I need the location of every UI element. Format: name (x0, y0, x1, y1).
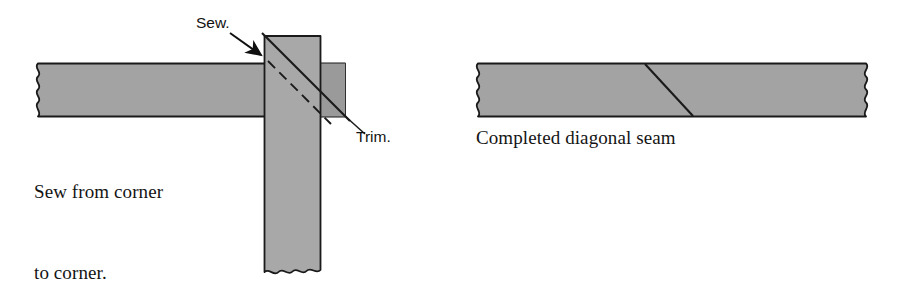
sew-annotation-label: Sew. (196, 14, 230, 31)
fabric-overlap-region (320, 64, 345, 117)
sew-arrow-icon (230, 33, 261, 55)
figure-root: Sew. Trim. Sew from corner to corner. Co… (0, 0, 904, 299)
trim-annotation-label: Trim. (356, 128, 391, 145)
caption-left: Sew from corner to corner. (34, 124, 274, 299)
right-panel-graphics (477, 64, 868, 117)
fabric-strip-joined (477, 64, 868, 117)
caption-left-line-1: Sew from corner (34, 178, 274, 205)
caption-left-line-2: to corner. (34, 259, 274, 286)
caption-right: Completed diagonal seam (476, 124, 806, 151)
